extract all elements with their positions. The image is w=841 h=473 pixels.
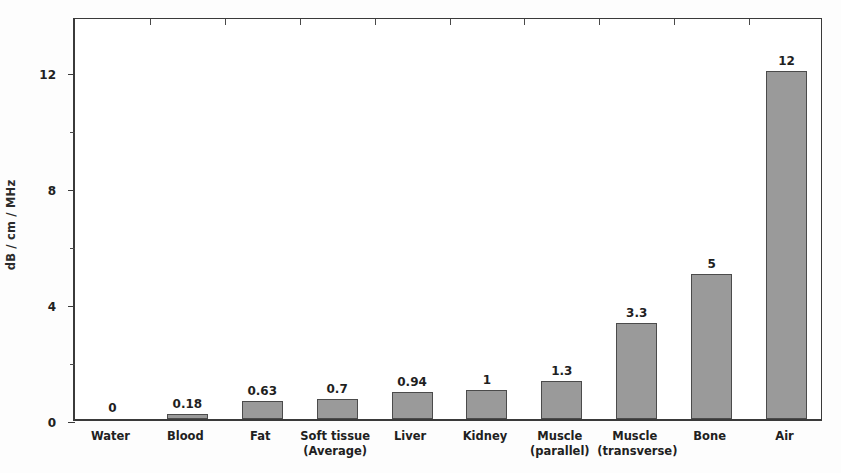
bar[interactable]: 12: [766, 71, 807, 419]
x-tick: [599, 19, 600, 25]
y-tick-label: 0: [48, 416, 56, 430]
x-tick: [674, 19, 675, 25]
bar-value-label: 0.7: [327, 382, 348, 396]
x-tick: [749, 19, 750, 25]
x-axis-category-label: Muscle (parallel): [522, 429, 597, 459]
x-axis-category-label: Blood: [148, 429, 223, 444]
bar[interactable]: 0.18: [167, 414, 208, 419]
bar[interactable]: 0.63: [242, 401, 283, 419]
bar[interactable]: 0.7: [317, 399, 358, 419]
y-tick-label: 8: [48, 184, 56, 198]
y-tick-minor: [70, 132, 75, 133]
x-tick: [225, 19, 226, 25]
y-tick-major: 0: [68, 422, 75, 423]
x-tick: [375, 19, 376, 25]
y-tick-label: 12: [39, 68, 56, 82]
bar-value-label: 1.3: [551, 364, 572, 378]
x-axis-category-label: Muscle (transverse): [597, 429, 672, 459]
x-axis-category-label: Air: [747, 429, 822, 444]
y-tick-major: 8: [68, 190, 75, 191]
x-axis-category-label: Soft tissue (Average): [298, 429, 373, 459]
x-axis-category-label: Kidney: [448, 429, 523, 444]
bar-value-label: 0: [108, 401, 116, 415]
bar-value-label: 1: [483, 373, 491, 387]
y-tick-major: 4: [68, 306, 75, 307]
y-axis-title: dB / cm / MHz: [4, 150, 18, 300]
bar[interactable]: 0: [92, 419, 133, 420]
bar-value-label: 0.63: [247, 384, 277, 398]
bar-value-label: 3.3: [626, 306, 647, 320]
y-tick-minor: [70, 364, 75, 365]
x-axis-category-label: Liver: [373, 429, 448, 444]
x-tick: [300, 19, 301, 25]
bar[interactable]: 1.3: [541, 381, 582, 419]
bar[interactable]: 1: [466, 390, 507, 419]
bar-value-label: 5: [707, 257, 715, 271]
x-tick: [524, 19, 525, 25]
y-tick-label: 4: [48, 300, 56, 314]
x-axis-category-label: Fat: [223, 429, 298, 444]
x-tick: [450, 19, 451, 25]
bar[interactable]: 0.94: [392, 392, 433, 419]
bar[interactable]: 3.3: [616, 323, 657, 419]
bar-value-label: 0.94: [397, 375, 427, 389]
x-axis-category-label: Water: [73, 429, 148, 444]
x-axis-category-label: Bone: [672, 429, 747, 444]
y-tick-major: 12: [68, 74, 75, 75]
bar-chart-figure: dB / cm / MHz 04812 00.180.630.70.9411.3…: [0, 0, 841, 473]
y-tick-minor: [70, 248, 75, 249]
bar[interactable]: 5: [691, 274, 732, 419]
bar-value-label: 0.18: [173, 397, 203, 411]
bar-value-label: 12: [778, 54, 795, 68]
x-tick: [150, 19, 151, 25]
plot-area: 04812 00.180.630.70.9411.33.3512: [73, 18, 822, 421]
